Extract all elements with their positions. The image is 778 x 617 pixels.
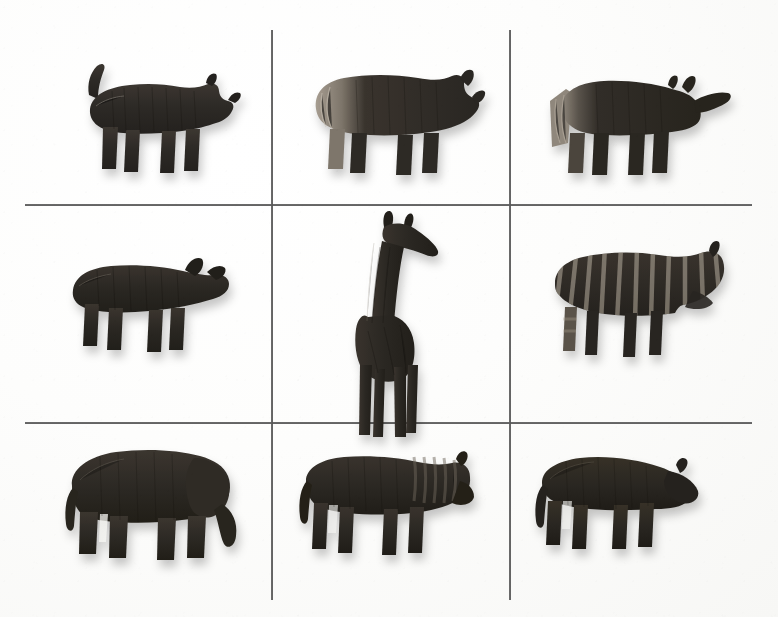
grid-cell-9: Lioness	[509, 422, 752, 600]
grid-cell-8: Male lion with mane	[271, 422, 509, 600]
grid-cell-6: Zebra	[509, 204, 752, 422]
figurine-rhinoceros-raised-tail: Rhinoceros with raised tail	[56, 51, 261, 191]
figurine-zebra: Zebra	[543, 235, 743, 375]
figurine-lion-male: Male lion with mane	[292, 435, 497, 580]
figurine-elephant: Elephant	[54, 432, 259, 582]
grid-cell-1: Rhinoceros with raised tail	[25, 30, 271, 204]
grid-cell-3: Rhinoceros with long horn	[509, 30, 752, 204]
figurine-rhinoceros-long-horn: Rhinoceros with long horn	[536, 51, 746, 191]
grid-cell-2: Rhinoceros with pale hindquarters	[271, 30, 509, 204]
figurine-giraffe: Giraffe	[328, 207, 468, 447]
figurine-buffalo: Cape buffalo	[57, 242, 247, 372]
figurine-lioness: Lioness	[532, 435, 737, 575]
grid-cell-5: Giraffe	[271, 204, 509, 422]
figurine-plate: Rhinoceros with raised tail	[0, 0, 778, 617]
grid-cell-7: Elephant	[25, 422, 271, 600]
grid-cell-4: Cape buffalo	[25, 204, 271, 422]
figurine-rhinoceros-pale-rump: Rhinoceros with pale hindquarters	[294, 49, 499, 189]
